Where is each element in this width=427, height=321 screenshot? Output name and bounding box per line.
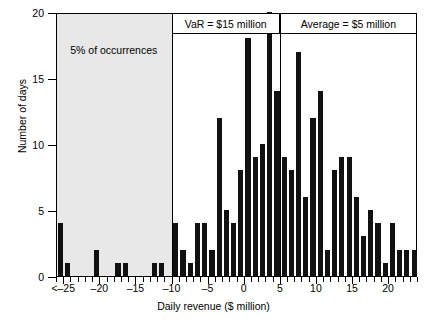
x-tick-minor: [121, 277, 122, 282]
x-tick-minor: [273, 277, 274, 282]
x-tick-label: –20: [91, 283, 109, 294]
y-tick-label: 5: [38, 206, 44, 217]
histogram-bar: [173, 223, 178, 276]
x-tick-minor: [157, 277, 158, 282]
histogram-bar: [159, 263, 164, 276]
y-tick: [48, 13, 56, 14]
x-tick-minor: [222, 277, 223, 282]
occurrences-annotation: 5% of occurrences: [60, 44, 168, 56]
x-tick-minor: [215, 277, 216, 282]
x-tick-label: 15: [346, 283, 358, 294]
x-tick-minor: [150, 277, 151, 282]
histogram-figure: Number of days 05101520 <–25–20–15–10–50…: [0, 0, 427, 321]
histogram-bar: [303, 197, 308, 276]
x-tick-minor: [114, 277, 115, 282]
x-tick-minor: [237, 277, 238, 282]
average-annotation-box: Average = $5 million: [280, 13, 417, 34]
average-line: [280, 13, 281, 277]
x-tick-minor: [417, 277, 418, 282]
histogram-bar: [224, 210, 229, 276]
histogram-bar: [397, 250, 402, 276]
histogram-bar: [94, 250, 99, 276]
x-tick-label: 0: [241, 283, 247, 294]
y-tick: [48, 277, 56, 278]
x-tick-minor: [229, 277, 230, 282]
var-line: [172, 13, 173, 277]
histogram-bar: [332, 170, 337, 276]
histogram-bar: [354, 197, 359, 276]
histogram-bar: [289, 170, 294, 276]
y-tick: [48, 211, 56, 212]
x-tick-minor: [301, 277, 302, 282]
x-tick-minor: [395, 277, 396, 282]
histogram-bar: [123, 263, 128, 276]
histogram-bar: [339, 157, 344, 276]
histogram-bar: [58, 223, 63, 276]
histogram-bar: [347, 157, 352, 276]
y-axis-title: Number of days: [16, 56, 28, 176]
histogram-bar: [260, 144, 265, 276]
histogram-bar: [404, 250, 409, 276]
x-tick-minor: [186, 277, 187, 282]
histogram-bar: [412, 250, 417, 276]
x-tick-minor: [330, 277, 331, 282]
x-tick-label: 20: [382, 283, 394, 294]
x-tick-minor: [403, 277, 404, 282]
histogram-bar: [245, 38, 250, 276]
x-tick-minor: [85, 277, 86, 282]
histogram-bar: [209, 250, 214, 276]
histogram-bar: [231, 223, 236, 276]
x-tick-label: –5: [202, 283, 214, 294]
x-tick-label: –15: [127, 283, 145, 294]
x-tick-label: –10: [163, 283, 181, 294]
x-tick-label: <–25: [51, 283, 75, 294]
histogram-bar: [65, 263, 70, 276]
histogram-bar: [383, 263, 388, 276]
var-annotation-box: VaR = $15 million: [172, 13, 280, 34]
y-tick-label: 20: [32, 8, 44, 19]
y-tick-label: 15: [32, 74, 44, 85]
histogram-bar: [202, 223, 207, 276]
x-tick-minor: [374, 277, 375, 282]
histogram-bar: [368, 210, 373, 276]
x-tick-minor: [294, 277, 295, 282]
y-tick: [48, 145, 56, 146]
histogram-bar: [253, 157, 258, 276]
x-axis-title: Daily revenue ($ million): [0, 300, 427, 312]
x-tick-minor: [78, 277, 79, 282]
histogram-bar: [180, 250, 185, 276]
histogram-bar: [375, 223, 380, 276]
x-tick-label: 5: [277, 283, 283, 294]
histogram-bar: [361, 236, 366, 276]
x-tick-minor: [193, 277, 194, 282]
y-tick: [48, 79, 56, 80]
y-tick-label: 0: [38, 272, 44, 283]
x-tick-label: 10: [310, 283, 322, 294]
histogram-bar: [318, 91, 323, 276]
histogram-bar: [390, 223, 395, 276]
histogram-bar: [282, 157, 287, 276]
histogram-bar: [195, 223, 200, 276]
histogram-bar: [267, 12, 272, 276]
x-tick-minor: [265, 277, 266, 282]
x-tick-minor: [338, 277, 339, 282]
x-tick-minor: [359, 277, 360, 282]
x-tick-minor: [258, 277, 259, 282]
x-tick-minor: [410, 277, 411, 282]
histogram-bar: [217, 118, 222, 276]
histogram-bar: [188, 263, 193, 276]
histogram-bar: [274, 91, 279, 276]
histogram-bar: [296, 52, 301, 276]
x-tick-minor: [366, 277, 367, 282]
x-tick-minor: [251, 277, 252, 282]
histogram-bar: [325, 250, 330, 276]
histogram-bar: [152, 263, 157, 276]
x-tick-minor: [287, 277, 288, 282]
histogram-bar: [238, 170, 243, 276]
histogram-bar: [310, 118, 315, 276]
y-tick-label: 10: [32, 140, 44, 151]
x-tick-minor: [323, 277, 324, 282]
histogram-bar: [115, 263, 120, 276]
